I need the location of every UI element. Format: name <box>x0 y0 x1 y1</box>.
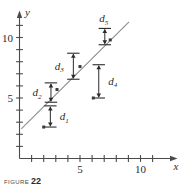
data-point <box>109 38 112 41</box>
data-point <box>56 88 59 91</box>
y-axis-tick-label: 10 <box>2 32 14 44</box>
x-axis-tick-label: 10 <box>135 163 147 175</box>
residual-label-d4: d4 <box>108 75 118 90</box>
residual-arrowhead-down-icon <box>49 83 54 87</box>
residual-label-subscript: 2 <box>38 93 42 101</box>
residual-arrowhead-up-icon <box>48 122 53 126</box>
figure-caption: FIGURE22 <box>4 170 41 186</box>
x-axis-tick-label: 5 <box>77 163 83 175</box>
caption-label: FIGURE <box>4 179 29 185</box>
x-axis-name-label: x <box>173 160 179 172</box>
caption-number: 22 <box>31 176 41 186</box>
residual-arrowhead-down-icon <box>48 106 53 110</box>
residual-label-subscript: 1 <box>65 117 69 125</box>
residual-arrowhead-down-icon <box>96 65 101 69</box>
residual-marker-d4: d4 <box>93 65 118 98</box>
residual-label-subscript: 5 <box>105 19 109 27</box>
residual-label-subscript: 4 <box>114 81 118 89</box>
data-point <box>42 126 45 129</box>
residual-label-d3: d3 <box>55 60 65 75</box>
residual-arrowhead-down-icon <box>71 54 76 58</box>
y-axis-arrowhead-icon <box>17 11 22 19</box>
residual-marker-d2: d2 <box>32 83 57 102</box>
residual-label-d1: d1 <box>60 110 69 125</box>
y-axis-name-label: y <box>24 6 30 18</box>
residual-marker-d1: d1 <box>44 106 69 127</box>
data-point <box>92 97 95 100</box>
y-axis-tick-label: 5 <box>8 92 14 104</box>
data-point <box>79 65 82 68</box>
residual-arrowhead-up-icon <box>96 93 101 97</box>
residual-arrowhead-down-icon <box>103 29 108 33</box>
residual-label-d2: d2 <box>32 86 42 101</box>
residual-label-d5: d5 <box>99 12 109 27</box>
figure-container: 510510xyd1d2d3d4d5 FIGURE22 <box>0 0 181 186</box>
scatter-plot-with-residuals: 510510xyd1d2d3d4d5 <box>0 0 181 186</box>
residual-label-subscript: 3 <box>59 66 64 74</box>
